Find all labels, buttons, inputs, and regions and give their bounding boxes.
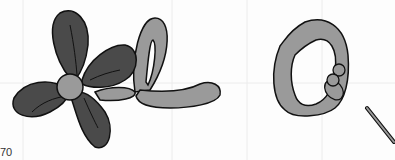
balloon-illustration xyxy=(0,0,395,160)
illustration-canvas: 70 xyxy=(0,0,395,160)
flower-center xyxy=(57,74,83,100)
caption-fragment: 70 xyxy=(0,146,12,158)
